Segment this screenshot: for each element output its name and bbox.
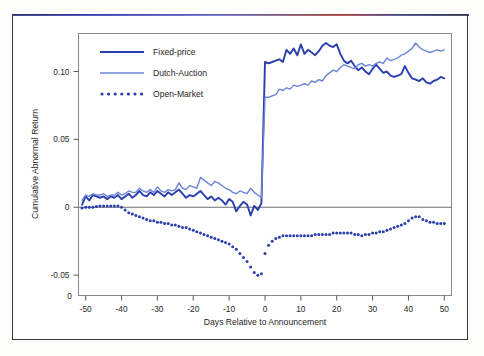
y-axis-origin-label: 0 <box>67 291 72 301</box>
series-point-open-market <box>314 233 317 236</box>
series-point-open-market <box>271 240 274 243</box>
series-point-open-market <box>436 222 439 225</box>
series-point-open-market <box>414 215 417 218</box>
x-tick-label: 50 <box>440 304 450 314</box>
series-point-open-market <box>167 222 170 225</box>
series-point-open-market <box>109 204 112 207</box>
x-tick-label: -10 <box>223 304 235 314</box>
series-point-open-market <box>224 241 227 244</box>
legend-label-fixed-price: Fixed-price <box>153 47 196 57</box>
series-point-open-market <box>199 232 202 235</box>
x-tick-label: -50 <box>80 304 92 314</box>
series-point-open-market <box>317 233 320 236</box>
series-point-open-market <box>368 233 371 236</box>
series-point-open-market <box>116 204 119 207</box>
series-point-open-market <box>231 245 234 248</box>
series-point-open-market <box>134 214 137 217</box>
series-point-open-market <box>242 256 245 259</box>
legend-swatch-open-market <box>107 92 110 95</box>
series-point-open-market <box>267 244 270 247</box>
series-point-open-market <box>425 219 428 222</box>
series-point-open-market <box>81 206 84 209</box>
series-point-open-market <box>138 215 141 218</box>
series-point-open-market <box>253 271 256 274</box>
x-tick-label: 20 <box>332 304 342 314</box>
series-point-open-market <box>185 226 188 229</box>
series-point-open-market <box>195 230 198 233</box>
series-point-open-market <box>246 260 249 263</box>
series-point-open-market <box>113 204 116 207</box>
series-point-open-market <box>170 223 173 226</box>
legend-label-dutch-auction: Dutch-Auction <box>153 68 207 78</box>
series-point-open-market <box>292 234 295 237</box>
x-tick-label: -30 <box>151 304 163 314</box>
series-point-open-market <box>163 222 166 225</box>
series-point-open-market <box>213 237 216 240</box>
series-point-open-market <box>278 236 281 239</box>
series-point-open-market <box>177 225 180 228</box>
series-point-open-market <box>364 233 367 236</box>
series-point-open-market <box>371 232 374 235</box>
y-axis-title: Cumulative Abnormal Return <box>30 109 40 219</box>
series-point-open-market <box>296 234 299 237</box>
series-point-open-market <box>307 234 310 237</box>
series-point-open-market <box>382 230 385 233</box>
legend-swatch-open-market <box>120 92 123 95</box>
series-point-open-market <box>332 232 335 235</box>
series-point-open-market <box>385 229 388 232</box>
x-tick-label: 0 <box>263 304 268 314</box>
series-point-open-market <box>152 219 155 222</box>
series-point-open-market <box>393 226 396 229</box>
series-point-open-market <box>102 204 105 207</box>
x-tick-label: -40 <box>115 304 127 314</box>
x-tick-label: 10 <box>296 304 306 314</box>
series-point-open-market <box>84 206 87 209</box>
series-point-open-market <box>99 204 102 207</box>
series-point-open-market <box>120 206 123 209</box>
series-point-open-market <box>310 234 313 237</box>
chart-legend: Fixed-priceDutch-AuctionOpen-Market <box>100 47 207 99</box>
x-axis-title: Days Relative to Announcement <box>204 317 327 327</box>
series-point-open-market <box>149 219 152 222</box>
series-point-open-market <box>256 274 259 277</box>
series-point-open-market <box>375 232 378 235</box>
legend-swatch-open-market <box>133 92 136 95</box>
series-point-open-market <box>88 206 91 209</box>
series-point-open-market <box>299 234 302 237</box>
y-axis-ticks: 0.100.050-0.05 <box>50 67 78 281</box>
y-tick-label: -0.05 <box>50 270 69 280</box>
series-point-open-market <box>127 211 130 214</box>
y-tick-label: 0.10 <box>53 67 70 77</box>
series-point-open-market <box>156 221 159 224</box>
series-point-open-market <box>285 234 288 237</box>
series-point-open-market <box>407 219 410 222</box>
series-point-open-market <box>238 252 241 255</box>
series-point-open-market <box>411 217 414 220</box>
series-point-open-market <box>443 222 446 225</box>
series-point-open-market <box>281 234 284 237</box>
series-point-open-market <box>203 233 206 236</box>
series-point-open-market <box>400 223 403 226</box>
series-point-open-market <box>95 205 98 208</box>
legend-swatch-open-market <box>114 92 117 95</box>
x-tick-label: 40 <box>404 304 414 314</box>
series-point-open-market <box>142 217 145 220</box>
series-point-open-market <box>289 234 292 237</box>
series-point-open-market <box>106 204 109 207</box>
legend-label-open-market: Open-Market <box>153 89 204 99</box>
series-point-open-market <box>342 232 345 235</box>
legend-swatch-open-market <box>100 92 103 95</box>
series-group <box>81 43 446 277</box>
series-point-open-market <box>360 234 363 237</box>
series-point-open-market <box>396 225 399 228</box>
series-point-open-market <box>145 218 148 221</box>
cumulative-abnormal-return-chart: 0.100.050-0.05 -50-40-30-20-100102030405… <box>0 0 484 356</box>
series-point-open-market <box>124 208 127 211</box>
series-point-open-market <box>428 221 431 224</box>
series-point-open-market <box>206 234 209 237</box>
x-axis-ticks: -50-40-30-20-1001020304050 <box>80 296 450 314</box>
series-point-open-market <box>228 242 231 245</box>
series-point-open-market <box>432 221 435 224</box>
series-point-open-market <box>324 233 327 236</box>
series-point-open-market <box>439 222 442 225</box>
